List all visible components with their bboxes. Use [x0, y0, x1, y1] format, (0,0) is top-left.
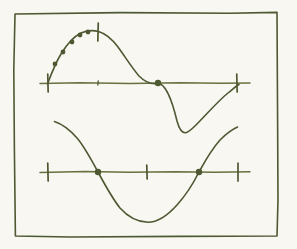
figure-container: Hand-drawn sine and cosine curves — [0, 0, 297, 249]
horizontal-axis — [40, 83, 250, 84]
zero-crossing-point-left — [95, 169, 101, 175]
zero-crossing-point-right — [196, 169, 202, 175]
figure-background — [0, 0, 297, 249]
sample-point-4 — [78, 33, 83, 38]
horizontal-axis — [40, 172, 250, 173]
sample-point-1 — [53, 62, 58, 67]
figure-canvas — [0, 0, 297, 249]
zero-crossing-point — [155, 80, 161, 86]
sample-point-5 — [86, 30, 91, 35]
sample-point-3 — [70, 40, 75, 45]
sample-point-2 — [61, 50, 66, 55]
